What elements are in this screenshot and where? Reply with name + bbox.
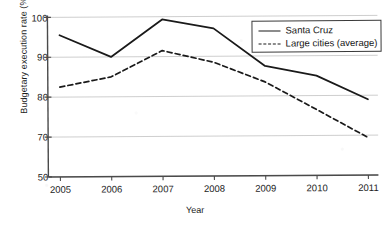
x-tick-label: 2008 xyxy=(204,183,225,194)
gridline xyxy=(47,15,377,17)
legend-line-dashed-icon xyxy=(259,43,281,44)
chart-figure: Budgetary execution rate (%) 100 90 80 7… xyxy=(0,0,389,226)
x-tick-label: 2005 xyxy=(50,184,71,195)
x-tick-label: 2006 xyxy=(101,183,122,194)
x-tick-label: 2011 xyxy=(358,182,379,193)
x-tick-label: 2009 xyxy=(255,183,276,194)
chart-skew-wrapper: Budgetary execution rate (%) 100 90 80 7… xyxy=(0,0,389,226)
x-tick-label: 2007 xyxy=(153,183,174,194)
chart-legend: Santa Cruz Large cities (average) xyxy=(251,20,381,53)
legend-label: Santa Cruz xyxy=(285,25,333,35)
y-axis-line xyxy=(47,15,48,177)
gridline xyxy=(48,95,378,97)
x-tick-label: 2010 xyxy=(307,182,328,193)
legend-line-solid-icon xyxy=(258,30,280,31)
legend-label: Large cities (average) xyxy=(286,38,378,48)
gridline xyxy=(48,55,378,57)
series-line-large-cities-average xyxy=(60,49,369,139)
x-axis-line xyxy=(48,175,378,177)
gridline xyxy=(48,135,378,137)
legend-item-large-cities: Large cities (average) xyxy=(259,36,378,51)
